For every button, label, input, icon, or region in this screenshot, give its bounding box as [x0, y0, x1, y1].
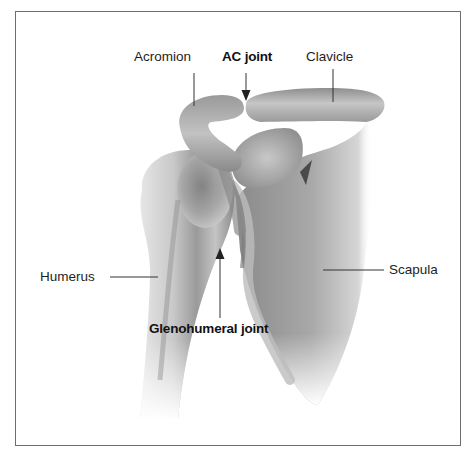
- label-glenohumeral-joint: Glenohumeral joint: [149, 322, 268, 336]
- label-ac-joint: AC joint: [222, 50, 272, 64]
- shoulder-illustration: [0, 0, 476, 464]
- clavicle-bone: [246, 88, 385, 122]
- label-clavicle: Clavicle: [306, 50, 353, 64]
- label-acromion: Acromion: [134, 50, 191, 64]
- label-humerus: Humerus: [40, 270, 95, 284]
- label-scapula: Scapula: [389, 263, 438, 277]
